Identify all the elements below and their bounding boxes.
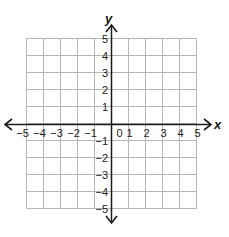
x-tick-label: −4 <box>33 127 46 139</box>
y-tick-label: 2 <box>102 84 108 96</box>
x-tick-label: 1 <box>126 127 132 139</box>
x-tick-label: 3 <box>160 127 166 139</box>
x-tick-label: 5 <box>194 127 200 139</box>
y-tick-label: −2 <box>95 152 108 164</box>
x-tick-label: 2 <box>143 127 149 139</box>
y-tick-label: −3 <box>95 169 108 181</box>
y-tick-label: 5 <box>102 33 108 45</box>
x-tick-label: −5 <box>16 127 29 139</box>
x-tick-label: 4 <box>177 127 183 139</box>
x-tick-label: 0 <box>117 127 123 139</box>
y-tick-label: 3 <box>102 67 108 79</box>
y-tick-label: −1 <box>95 135 108 147</box>
y-tick-label: −4 <box>95 186 108 198</box>
coordinate-plane: x y −5−4−3−2−1012345 12345−1−2−3−4−5 <box>0 0 229 237</box>
x-tick-label: −3 <box>50 127 63 139</box>
x-axis-label: x <box>213 117 222 132</box>
axes <box>5 25 211 223</box>
x-tick-labels: −5−4−3−2−1012345 <box>16 127 200 139</box>
y-tick-label: 1 <box>102 101 108 113</box>
y-tick-label: 4 <box>102 50 108 62</box>
y-tick-label: −5 <box>95 203 108 215</box>
y-axis-label: y <box>104 11 113 26</box>
x-tick-label: −2 <box>67 127 80 139</box>
